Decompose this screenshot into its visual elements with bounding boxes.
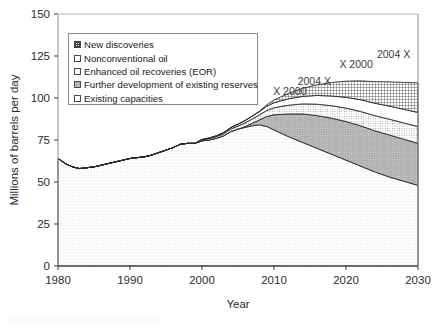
y-axis-label: Millions of barrels per day xyxy=(8,74,20,205)
chart-annotation: 2004 X xyxy=(377,48,410,60)
x-tick-label: 2020 xyxy=(333,274,359,286)
page-edge-artifact xyxy=(10,317,160,325)
chart-figure: 0255075100125150 19801990200020102020203… xyxy=(0,0,444,328)
legend-item-existing-capacities: Existing capacities xyxy=(74,92,252,105)
chart-legend: New discoveries Nonconventional oil Enha… xyxy=(68,33,258,105)
legend-swatch-fine-dot-icon xyxy=(74,68,81,75)
legend-item-nonconventional-oil: Nonconventional oil xyxy=(74,51,252,64)
y-tick-label: 150 xyxy=(31,8,50,20)
legend-label: Existing capacities xyxy=(84,93,163,104)
series-areas xyxy=(58,81,418,266)
x-tick-labels: 198019902000201020202030 xyxy=(45,274,431,286)
legend-swatch-light-dot-icon xyxy=(74,95,81,102)
x-tick-label: 2010 xyxy=(261,274,287,286)
x-axis-label: Year xyxy=(226,298,249,310)
legend-label: Further development of existing reserves xyxy=(84,79,258,90)
chart-annotation: 2004 X xyxy=(298,75,331,87)
legend-label: New discoveries xyxy=(84,39,154,50)
x-tick-label: 2030 xyxy=(405,274,431,286)
legend-label: Nonconventional oil xyxy=(84,53,168,64)
legend-swatch-cross-hatch-icon xyxy=(74,41,81,48)
legend-label: Enhanced oil recoveries (EOR) xyxy=(84,66,216,77)
y-tick-label: 125 xyxy=(31,50,50,62)
legend-item-new-discoveries: New discoveries xyxy=(74,38,252,51)
legend-swatch-gray-fill-icon xyxy=(74,81,81,88)
legend-item-further-development: Further development of existing reserves xyxy=(74,78,252,91)
legend-item-enhanced-oil-recoveries: Enhanced oil recoveries (EOR) xyxy=(74,65,252,78)
chart-annotation: X 2000 xyxy=(273,85,306,97)
y-tick-labels: 0255075100125150 xyxy=(31,8,50,272)
x-tick-label: 1990 xyxy=(117,274,143,286)
legend-swatch-white-icon xyxy=(74,55,81,62)
y-tick-label: 50 xyxy=(37,176,50,188)
x-tick-label: 2000 xyxy=(189,274,215,286)
y-tick-label: 75 xyxy=(37,134,50,146)
chart-annotation: X 2000 xyxy=(339,58,372,70)
x-tick-label: 1980 xyxy=(45,274,71,286)
y-tick-label: 0 xyxy=(44,260,50,272)
y-tick-label: 100 xyxy=(31,92,50,104)
y-tick-label: 25 xyxy=(37,218,50,230)
